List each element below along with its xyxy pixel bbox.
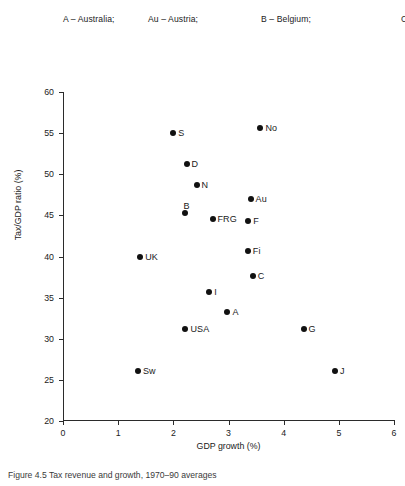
data-point-label: J [340, 366, 345, 376]
data-point-marker [250, 273, 256, 279]
x-tick-label: 2 [163, 428, 183, 438]
y-axis-title: Tax/GDP ratio (%) [13, 130, 23, 280]
legend-entry: Au – Austria; [148, 12, 261, 27]
y-tick-label: 25 [32, 375, 54, 385]
data-point-label: Sw [143, 366, 156, 376]
data-point-label: No [265, 123, 277, 133]
data-point-marker [170, 130, 176, 136]
x-tick-label: 0 [53, 428, 73, 438]
x-tick-mark [394, 420, 395, 425]
data-point-marker [257, 125, 263, 131]
data-point-label: D [192, 159, 199, 169]
data-point-label: UK [145, 252, 158, 262]
x-tick-mark [284, 420, 285, 425]
x-tick-label: 1 [108, 428, 128, 438]
data-point-marker [194, 182, 200, 188]
y-tick-mark [59, 339, 64, 340]
x-tick-label: 5 [329, 428, 349, 438]
y-tick-label: 60 [32, 87, 54, 97]
x-tick-mark [229, 420, 230, 425]
x-axis-title: GDP growth (%) [63, 441, 394, 451]
y-tick-label: 30 [32, 334, 54, 344]
y-tick-label: 35 [32, 293, 54, 303]
y-tick-label: 55 [32, 128, 54, 138]
data-point-marker [137, 254, 143, 260]
y-tick-label: 20 [32, 416, 54, 426]
x-tick-label: 3 [219, 428, 239, 438]
x-tick-mark [339, 420, 340, 425]
data-point-label: N [202, 180, 209, 190]
legend-entry: A – Australia; [63, 12, 148, 27]
country-abbreviation-key: A – Australia;Au – Austria;B – Belgium;C… [63, 12, 401, 27]
y-tick-mark [59, 298, 64, 299]
data-point-marker [301, 326, 307, 332]
data-point-marker [182, 326, 188, 332]
plot-area: 202530354045505560 0123456 SNoDNAuBFRGFF… [63, 92, 394, 421]
legend-entry: B – Belgium; [261, 12, 401, 27]
legend-entry: C – Canada; [401, 12, 405, 27]
data-point-label: F [253, 216, 259, 226]
y-tick-mark [59, 215, 64, 216]
data-point-label: C [258, 271, 265, 281]
data-point-marker [210, 216, 216, 222]
data-point-marker [248, 196, 254, 202]
data-point-label: Au [256, 194, 267, 204]
y-tick-label: 50 [32, 169, 54, 179]
y-tick-label: 40 [32, 252, 54, 262]
y-tick-label: 45 [32, 210, 54, 220]
data-point-label: USA [190, 324, 209, 334]
y-tick-mark [59, 380, 64, 381]
data-point-label: FRG [218, 214, 237, 224]
data-point-marker [332, 368, 338, 374]
data-point-marker [206, 289, 212, 295]
data-point-label: B [183, 201, 189, 211]
x-tick-mark [173, 420, 174, 425]
data-point-marker [245, 248, 251, 254]
data-point-label: A [232, 307, 238, 317]
y-tick-mark [59, 92, 64, 93]
data-point-marker [245, 218, 251, 224]
data-point-label: G [309, 324, 316, 334]
data-point-label: S [178, 128, 184, 138]
x-tick-label: 6 [384, 428, 404, 438]
x-tick-label: 4 [274, 428, 294, 438]
x-tick-mark [118, 420, 119, 425]
y-tick-mark [59, 133, 64, 134]
data-point-marker [135, 368, 141, 374]
data-point-marker [224, 309, 230, 315]
x-tick-mark [63, 420, 64, 425]
data-point-marker [184, 161, 190, 167]
y-tick-mark [59, 174, 64, 175]
figure-caption: Figure 4.5 Tax revenue and growth, 1970–… [8, 470, 398, 481]
y-tick-mark [59, 257, 64, 258]
data-point-label: Fi [253, 246, 261, 256]
scatter-plot-figure: A – Australia;Au – Austria;B – Belgium;C… [0, 0, 405, 486]
data-point-label: I [214, 287, 217, 297]
